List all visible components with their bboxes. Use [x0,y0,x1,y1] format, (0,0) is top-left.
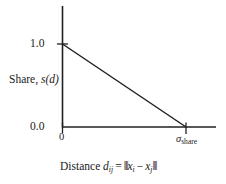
share-decay-line [63,44,187,127]
x-axis-title: Distance dij=‖‖xi−xj‖‖ [60,161,156,174]
plot-canvas [0,0,226,184]
norm-close-bars-2: ‖ [154,161,156,173]
sigma-subscript: share [181,137,197,146]
figure-container: 1.0 0.0 0 σshare Share, s(d) Distance di… [0,0,226,184]
x-origin-label: 0 [59,132,64,143]
y-axis-title-prefix: Share, [9,73,41,85]
y-tick-label-0: 0.0 [30,121,44,133]
x-axis-title-prefix: Distance [60,160,103,172]
y-axis-title: Share, s(d) [9,74,59,86]
y-axis-title-function: s(d) [41,73,59,85]
y-tick-label-1: 1.0 [30,38,44,50]
norm-minus-sign: − [135,160,146,172]
sigma-share-label: σshare [176,134,197,145]
x-axis-equals-sign: = [113,160,124,172]
